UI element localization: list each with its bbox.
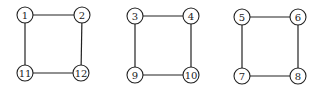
node-label: 5 (239, 12, 245, 23)
node-11: 11 (17, 65, 33, 81)
graph-square-c: 5678 (234, 9, 306, 84)
node-10: 10 (183, 67, 199, 83)
node-label: 9 (132, 70, 138, 81)
node-label: 3 (132, 11, 138, 22)
node-4: 4 (183, 8, 199, 24)
node-label: 6 (295, 12, 301, 23)
node-label: 7 (239, 71, 245, 82)
graph-square-a: 121112 (17, 7, 90, 81)
node-9: 9 (127, 67, 143, 83)
node-label: 1 (22, 10, 28, 21)
node-label: 2 (79, 10, 85, 21)
node-label: 4 (188, 11, 194, 22)
node-1: 1 (17, 7, 33, 23)
node-label: 10 (185, 70, 198, 81)
node-6: 6 (290, 9, 306, 25)
node-3: 3 (127, 8, 143, 24)
node-label: 12 (75, 68, 88, 79)
edge-2-12 (81, 15, 82, 73)
node-5: 5 (234, 9, 250, 25)
node-8: 8 (290, 68, 306, 84)
graph-diagram: 121112349105678 (0, 0, 321, 88)
node-2: 2 (74, 7, 90, 23)
graph-square-b: 34910 (127, 8, 199, 83)
node-label: 8 (295, 71, 301, 82)
node-12: 12 (73, 65, 89, 81)
node-7: 7 (234, 68, 250, 84)
node-label: 11 (19, 68, 32, 79)
